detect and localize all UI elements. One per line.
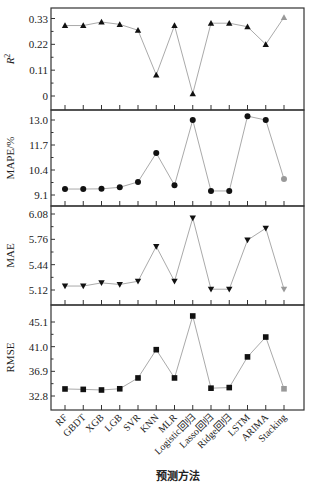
x-axis: RFGBDTXGBLGBSVRKNNMLRLogistic回归Lasso回归Ri… (53, 411, 288, 457)
data-point (153, 347, 159, 353)
x-axis-title: 预测方法 (156, 469, 200, 482)
data-point (117, 386, 123, 392)
data-point (172, 182, 178, 188)
y-tick-label: 0.22 (29, 38, 48, 50)
data-point (153, 72, 159, 78)
panel-frame (51, 206, 304, 305)
data-point (263, 226, 269, 232)
data-point (80, 387, 86, 393)
data-point (263, 334, 269, 340)
data-point (135, 179, 141, 185)
data-point (226, 188, 232, 194)
y-tick-label: 13.0 (29, 114, 49, 126)
panel-rmse: 32.836.941.045.1RMSE (4, 305, 304, 410)
data-point (245, 113, 251, 119)
data-point (99, 387, 105, 393)
data-point (80, 186, 86, 192)
panel-mae: 5.125.445.766.08MAE (4, 206, 304, 305)
y-axis-title: MAPE/% (4, 137, 16, 180)
y-tick-label: 10.4 (29, 164, 49, 176)
y-tick-label: 32.8 (29, 390, 49, 402)
chart-panels: 00.110.220.33R29.110.411.713.0MAPE/%5.12… (3, 8, 304, 410)
data-point (245, 354, 251, 360)
y-tick-label: 5.76 (29, 233, 49, 245)
panel-frame (51, 305, 304, 410)
panel-frame (51, 110, 304, 206)
data-point (190, 215, 196, 221)
x-category-label: LGB (102, 411, 124, 433)
y-tick-label: 9.1 (34, 189, 48, 201)
y-axis-title: RMSE (4, 342, 16, 372)
data-point (98, 19, 104, 25)
y-tick-label: 0.33 (29, 13, 49, 25)
data-point (281, 14, 287, 20)
y-tick-label: 6.08 (29, 208, 49, 220)
data-point (117, 184, 123, 190)
data-point (62, 386, 68, 392)
y-tick-label: 45.1 (29, 316, 48, 328)
y-tick-label: 0 (43, 90, 49, 102)
data-point (62, 186, 68, 192)
y-axis-title: R2 (3, 54, 16, 66)
chart: 00.110.220.33R29.110.411.713.0MAPE/%5.12… (0, 0, 317, 482)
data-point (171, 279, 177, 285)
series-line (65, 116, 284, 191)
panel-mape: 9.110.411.713.0MAPE/% (4, 110, 304, 206)
data-point (190, 117, 196, 123)
data-point (208, 385, 214, 391)
data-point (281, 176, 287, 182)
y-tick-label: 11.7 (29, 139, 48, 151)
series-line (65, 17, 284, 93)
data-point (208, 188, 214, 194)
data-point (244, 238, 250, 244)
data-point (190, 90, 196, 96)
data-point (281, 386, 287, 392)
data-point (172, 375, 178, 381)
panel-r: 00.110.220.33R2 (3, 8, 304, 110)
y-tick-label: 5.12 (29, 284, 48, 296)
data-point (153, 150, 159, 156)
x-category-label: XGB (83, 411, 106, 434)
y-tick-label: 5.44 (29, 259, 49, 271)
y-tick-label: 41.0 (29, 341, 49, 353)
data-point (281, 287, 287, 293)
data-point (117, 282, 123, 288)
y-tick-label: 36.9 (29, 365, 49, 377)
data-point (99, 186, 105, 192)
data-point (171, 22, 177, 28)
y-tick-label: 0.11 (29, 64, 48, 76)
x-category-label: KNN (138, 412, 161, 435)
data-point (153, 244, 159, 250)
data-point (226, 385, 232, 391)
data-point (135, 375, 141, 381)
data-point (190, 313, 196, 319)
series-line (65, 218, 284, 289)
panel-frame (51, 8, 304, 110)
y-axis-title: MAE (4, 243, 16, 268)
data-point (263, 117, 269, 123)
